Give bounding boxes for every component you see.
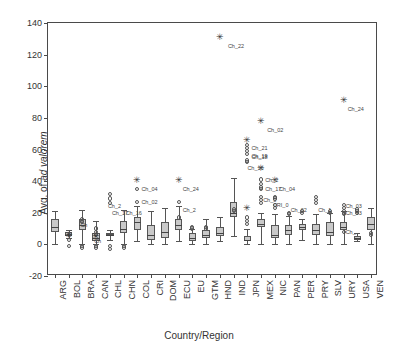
whisker-cap-low — [258, 244, 264, 245]
median-line — [216, 233, 224, 234]
extreme-point: ✳ — [340, 96, 348, 105]
point-label: Ch — [80, 222, 87, 228]
point-label: Ch_02 — [141, 199, 157, 205]
point-label: Ch — [94, 238, 101, 244]
whisker-cap-high — [176, 206, 182, 207]
x-tick-label-usa: USA — [361, 280, 371, 299]
whisker-cap-high — [52, 211, 58, 212]
outlier-point — [190, 226, 194, 230]
outlier-point — [314, 201, 318, 205]
whisker-cap-high — [93, 221, 99, 222]
whisker-cap-low — [134, 241, 140, 242]
point-label: Ch_2 — [108, 203, 121, 209]
outlier-point — [108, 247, 112, 251]
outlier-point — [204, 226, 208, 230]
whisker-cap-low — [286, 244, 292, 245]
median-line — [202, 235, 210, 236]
point-label: Ch_21 — [251, 145, 267, 151]
x-tick-label-nic: NIC — [278, 280, 288, 296]
whisker-cap-low — [341, 244, 347, 245]
outlier-point — [259, 187, 263, 191]
box-rect — [120, 221, 128, 234]
x-tick-mark — [69, 274, 70, 278]
x-tick-label-dom: DOM — [168, 280, 178, 301]
whisker-cap-low — [244, 244, 250, 245]
median-line — [326, 232, 334, 233]
box-rect — [147, 225, 155, 239]
point-label: Ch_ — [346, 229, 356, 235]
whisker-cap-high — [299, 219, 305, 220]
x-tick-label-eu: EU — [196, 280, 206, 293]
whisker-cap-low — [52, 244, 58, 245]
x-tick-mark — [82, 274, 83, 278]
point-label: Ch_03 — [346, 203, 362, 209]
whisker-cap-high — [134, 206, 140, 207]
x-tick-label-ecu: ECU — [182, 280, 192, 299]
x-tick-label-ind: IND — [237, 280, 247, 296]
x-tick-label-gtm: GTM — [210, 280, 220, 300]
x-tick-mark — [165, 274, 166, 278]
x-tick-mark — [179, 274, 180, 278]
whisker-cap-high — [313, 214, 319, 215]
x-tick-mark — [371, 274, 372, 278]
whisker-cap-low — [217, 241, 223, 242]
y-tick-mark — [44, 213, 48, 214]
x-tick-mark — [289, 274, 290, 278]
x-tick-label-chn: CHN — [127, 280, 137, 300]
x-tick-mark — [110, 274, 111, 278]
whisker-cap-low — [299, 240, 305, 241]
x-tick-label-arg: ARG — [58, 280, 68, 300]
y-tick-mark — [44, 244, 48, 245]
x-tick-mark — [137, 274, 138, 278]
whisker-cap-low — [368, 244, 374, 245]
x-tick-mark — [330, 274, 331, 278]
whisker-cap-high — [272, 214, 278, 215]
median-line — [51, 227, 59, 228]
x-tick-label-mex: MEX — [265, 280, 275, 300]
median-line — [244, 240, 252, 241]
box-rect — [271, 225, 279, 238]
point-label: Ch_2 — [183, 207, 196, 213]
x-tick-mark — [261, 274, 262, 278]
outlier-point — [94, 245, 98, 249]
outlier-point — [177, 200, 181, 204]
median-line — [134, 222, 142, 223]
x-tick-label-hnd: HND — [223, 280, 233, 300]
whisker-cap-low — [189, 244, 195, 245]
whisker-cap-high — [286, 216, 292, 217]
point-label: Ch_18 — [251, 154, 267, 160]
median-line — [354, 238, 362, 239]
whisker-cap-high — [162, 208, 168, 209]
x-tick-label-slv: SLV — [333, 280, 343, 296]
y-tick-mark — [44, 276, 48, 277]
box-rect — [161, 222, 169, 238]
median-line — [285, 230, 293, 231]
x-tick-label-bol: BOL — [72, 280, 82, 298]
boxplot-figure: Avg. of ad valorem -20020406080100120140… — [0, 0, 398, 345]
y-tick-mark — [44, 181, 48, 182]
whisker-cap-low — [176, 241, 182, 242]
whisker-cap-high — [148, 211, 154, 212]
outlier-point — [245, 160, 249, 164]
whisker-cap-high — [203, 219, 209, 220]
whisker-cap-high — [79, 210, 85, 211]
whisker-cap-low — [203, 244, 209, 245]
x-tick-label-can: CAN — [100, 280, 110, 299]
x-tick-label-jpn: JPN — [251, 280, 261, 297]
y-tick-mark — [44, 86, 48, 87]
y-tick-mark — [44, 23, 48, 24]
x-tick-mark — [96, 274, 97, 278]
y-tick-mark — [44, 55, 48, 56]
box-rect — [216, 227, 224, 236]
y-tick-mark — [44, 118, 48, 119]
point-label: Ch_16 — [247, 165, 263, 171]
outlier-point — [232, 209, 236, 213]
outlier-point — [259, 177, 263, 181]
x-tick-mark — [55, 274, 56, 278]
median-line — [147, 235, 155, 236]
outlier-point — [245, 222, 249, 226]
outlier-point — [80, 245, 84, 249]
point-label: Ch_2 — [265, 177, 278, 183]
x-axis-title: Country/Region — [0, 330, 398, 341]
x-tick-mark — [247, 274, 248, 278]
